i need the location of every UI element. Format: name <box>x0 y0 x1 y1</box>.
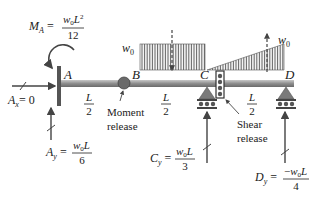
svg-text:Shear: Shear <box>237 118 262 130</box>
reaction-ax-label: Ax= 0 <box>7 93 35 109</box>
reaction-moment-ma-arrow <box>49 45 74 68</box>
reaction-cy-label: Cy = w0L 3 <box>150 145 195 172</box>
svg-text:2: 2 <box>249 105 255 117</box>
moment-release-label: Moment release <box>107 106 144 132</box>
svg-text:Cy =: Cy = <box>150 151 172 167</box>
moment-release-pointer <box>120 91 123 101</box>
point-label-b: B <box>132 67 140 82</box>
point-label-a: A <box>63 67 72 82</box>
reaction-ay-label: Ay = w0L 6 <box>45 139 92 166</box>
segment-label-cd: L 2 <box>247 91 257 117</box>
triangular-load-label: w0 <box>278 33 290 49</box>
roller-support-c <box>197 87 217 109</box>
segment-label-bc: L 2 <box>161 91 171 117</box>
svg-text:Moment: Moment <box>107 106 144 118</box>
reaction-ax-arrow <box>12 82 55 90</box>
svg-text:release: release <box>107 120 138 132</box>
point-label-d: D <box>284 67 295 82</box>
reaction-dy-arrow <box>281 112 289 163</box>
svg-text:MA =: MA = <box>28 19 54 35</box>
uniform-load-label: w0 <box>122 41 134 57</box>
shear-release-pointer <box>226 100 239 114</box>
reaction-ay-arrow <box>47 108 55 140</box>
diagram-canvas: A B C D L 2 L 2 L 2 w0 w0 MA = w0L2 12 A… <box>0 0 321 199</box>
svg-text:L: L <box>85 91 92 103</box>
svg-text:Dy =: Dy = <box>254 170 277 186</box>
moment-release-hinge <box>118 77 130 89</box>
roller-support-d <box>276 87 296 109</box>
reaction-dy-label: Dy = −w0L 4 <box>254 165 309 192</box>
shear-release-label: Shear release <box>237 118 268 144</box>
svg-text:−w0L: −w0L <box>284 165 307 179</box>
svg-text:4: 4 <box>293 180 299 192</box>
svg-text:Ay =: Ay = <box>45 145 67 161</box>
shear-release-link <box>216 71 224 98</box>
reaction-ma-label: MA = w0L2 12 <box>28 13 84 41</box>
svg-text:6: 6 <box>79 154 85 166</box>
svg-text:12: 12 <box>68 29 79 41</box>
svg-text:L: L <box>162 91 169 103</box>
beam-diagram: A B C D L 2 L 2 L 2 w0 w0 MA = w0L2 12 A… <box>0 0 321 199</box>
svg-text:2: 2 <box>163 105 169 117</box>
svg-text:w0L2: w0L2 <box>63 13 84 27</box>
svg-text:2: 2 <box>86 105 92 117</box>
segment-label-ab: L 2 <box>84 91 94 117</box>
svg-text:release: release <box>237 132 268 144</box>
triangular-distributed-load <box>207 44 284 70</box>
beam <box>61 80 294 87</box>
fixed-support-wall <box>57 66 61 106</box>
reaction-cy-arrow <box>203 112 211 163</box>
svg-text:w0L: w0L <box>176 145 193 159</box>
svg-text:3: 3 <box>182 160 188 172</box>
svg-text:w0L: w0L <box>73 139 90 153</box>
svg-text:L: L <box>248 91 255 103</box>
point-label-c: C <box>200 67 209 82</box>
